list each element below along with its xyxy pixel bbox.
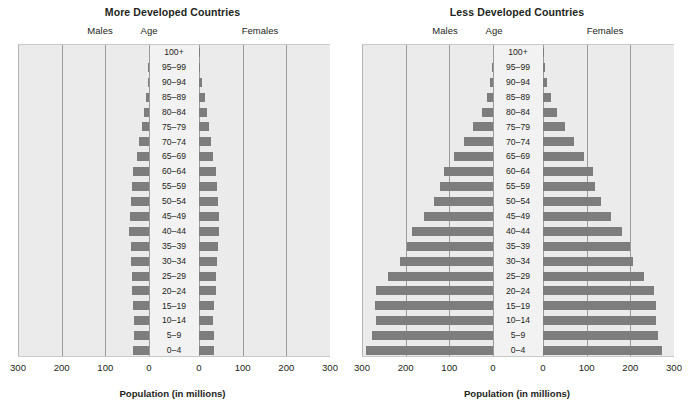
bar-male-40–44 (412, 227, 493, 236)
bar-female-70–74 (543, 137, 574, 146)
bar-male-15–19 (133, 301, 149, 310)
bar-male-45–49 (424, 212, 493, 221)
bar-male-45–49 (130, 212, 149, 221)
x-tick-label: 100 (429, 362, 469, 373)
age-label-40–44: 40–44 (493, 227, 543, 236)
age-label-80–84: 80–84 (493, 108, 543, 117)
age-label-90–94: 90–94 (493, 78, 543, 87)
bar-female-40–44 (199, 227, 219, 236)
gridline-r-100 (243, 45, 244, 356)
age-label-25–29: 25–29 (149, 272, 199, 281)
bar-male-65–69 (454, 152, 493, 161)
bar-female-95–99 (543, 63, 545, 72)
age-label-10–14: 10–14 (149, 316, 199, 325)
age-label-35–39: 35–39 (493, 242, 543, 251)
bar-female-80–84 (199, 108, 207, 117)
bar-female-75–79 (199, 122, 209, 131)
gridline-l-200 (62, 45, 63, 356)
bar-female-25–29 (199, 272, 216, 281)
age-label-85–89: 85–89 (149, 93, 199, 102)
age-label-85–89: 85–89 (493, 93, 543, 102)
bar-female-100+ (543, 48, 544, 57)
plot-area-right: 100+95–9990–9485–8980–8475–7970–7465–696… (362, 44, 674, 357)
bar-female-45–49 (543, 212, 611, 221)
bar-female-65–69 (199, 152, 213, 161)
age-label-60–64: 60–64 (493, 167, 543, 176)
bar-male-80–84 (482, 108, 493, 117)
bar-male-5–9 (372, 331, 493, 340)
age-label-45–49: 45–49 (149, 212, 199, 221)
gridline-l-300 (18, 45, 19, 356)
age-label-50–54: 50–54 (493, 197, 543, 206)
age-label-25–29: 25–29 (493, 272, 543, 281)
bar-female-35–39 (199, 242, 218, 251)
bar-male-55–59 (132, 182, 149, 191)
bar-male-75–79 (473, 122, 493, 131)
bar-female-30–34 (543, 257, 633, 266)
x-tick-label: 100 (85, 362, 125, 373)
bar-male-0–4 (366, 346, 493, 355)
bar-female-65–69 (543, 152, 584, 161)
bar-female-25–29 (543, 272, 644, 281)
x-tick-label: 200 (42, 362, 82, 373)
age-label-80–84: 80–84 (149, 108, 199, 117)
bar-male-10–14 (376, 316, 493, 325)
x-tick-label: 0 (473, 362, 513, 373)
bar-female-85–89 (199, 93, 205, 102)
x-tick-label: 0 (523, 362, 563, 373)
females-header-right: Females (545, 25, 665, 36)
bar-female-35–39 (543, 242, 630, 251)
chart-title-right: Less Developed Countries (345, 6, 689, 18)
bar-male-25–29 (388, 272, 493, 281)
chart-panel-less-developed: Less Developed Countries Males Age Femal… (345, 0, 689, 411)
chart-panel-more-developed: More Developed Countries Males Age Femal… (0, 0, 345, 411)
bar-male-30–34 (400, 257, 493, 266)
bar-male-20–24 (376, 286, 493, 295)
x-tick-label: 300 (654, 362, 689, 373)
age-label-30–34: 30–34 (149, 257, 199, 266)
bar-female-55–59 (199, 182, 217, 191)
age-label-55–59: 55–59 (149, 182, 199, 191)
bar-male-60–64 (444, 167, 493, 176)
bar-male-65–69 (137, 152, 149, 161)
bar-female-10–14 (543, 316, 656, 325)
bar-female-100+ (199, 48, 200, 57)
age-label-55–59: 55–59 (493, 182, 543, 191)
age-label-70–74: 70–74 (493, 138, 543, 147)
age-label-70–74: 70–74 (149, 138, 199, 147)
age-label-35–39: 35–39 (149, 242, 199, 251)
age-label-90–94: 90–94 (149, 78, 199, 87)
bar-female-80–84 (543, 108, 557, 117)
bar-female-15–19 (543, 301, 656, 310)
age-label-60–64: 60–64 (149, 167, 199, 176)
bar-female-85–89 (543, 93, 551, 102)
age-label-5–9: 5–9 (149, 331, 199, 340)
age-label-40–44: 40–44 (149, 227, 199, 236)
bar-male-0–4 (133, 346, 149, 355)
x-tick-label: 0 (129, 362, 169, 373)
bar-male-70–74 (139, 137, 149, 146)
bar-female-90–94 (199, 78, 202, 87)
x-tick-label: 200 (386, 362, 426, 373)
x-tick-label: 100 (567, 362, 607, 373)
age-label-10–14: 10–14 (493, 316, 543, 325)
bar-female-5–9 (543, 331, 658, 340)
bar-female-95–99 (199, 63, 200, 72)
bar-female-20–24 (199, 286, 216, 295)
bar-female-60–64 (543, 167, 593, 176)
bar-male-30–34 (131, 257, 149, 266)
bar-female-75–79 (543, 122, 565, 131)
gridline-l-300 (362, 45, 363, 356)
age-label-15–19: 15–19 (493, 302, 543, 311)
gridline-l-100 (105, 45, 106, 356)
age-label-65–69: 65–69 (493, 152, 543, 161)
bar-male-35–39 (131, 242, 149, 251)
age-header-right: Age (459, 25, 529, 36)
bar-female-10–14 (199, 316, 213, 325)
bar-male-5–9 (134, 331, 149, 340)
age-label-20–24: 20–24 (149, 287, 199, 296)
x-tick-label: 300 (0, 362, 38, 373)
bar-female-15–19 (199, 301, 214, 310)
age-label-5–9: 5–9 (493, 331, 543, 340)
x-axis-title-left: Population (in millions) (0, 388, 345, 399)
